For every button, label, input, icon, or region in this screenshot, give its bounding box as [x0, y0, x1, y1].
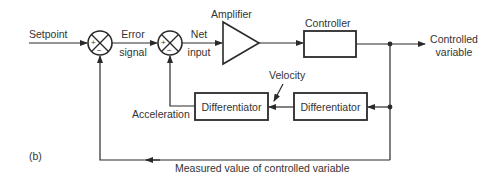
sj1-minus: − — [97, 45, 102, 57]
measured-value-label: Measured value of controlled variable — [175, 162, 350, 174]
acceleration-line — [170, 56, 195, 106]
sj1-plus: + — [91, 37, 96, 49]
setpoint-label: Setpoint — [29, 28, 68, 40]
panel-label: (b) — [29, 150, 42, 162]
sj2-plus: + — [161, 37, 166, 49]
controller-block — [304, 31, 356, 57]
net-label-1: Net — [187, 28, 211, 40]
differentiator-1-label: Differentiator — [195, 93, 268, 120]
sj2-minus: − — [167, 45, 172, 57]
error-label-2: signal — [116, 46, 150, 58]
net-label-2: input — [185, 46, 213, 58]
velocity-label: Velocity — [269, 69, 305, 81]
differentiator-2-label: Differentiator — [294, 93, 367, 120]
velocity-leader — [274, 84, 283, 101]
error-label-1: Error — [118, 28, 148, 40]
block-diagram — [0, 0, 497, 180]
acceleration-label: Acceleration — [132, 108, 190, 120]
controlled-variable-label-2: variable — [424, 46, 484, 58]
amplifier-block — [223, 22, 259, 64]
controller-label: Controller — [305, 17, 351, 29]
controlled-variable-label-1: Controlled — [424, 33, 484, 45]
amplifier-label: Amplifier — [211, 8, 252, 20]
